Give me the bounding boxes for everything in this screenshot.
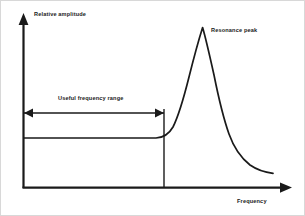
x-axis-label: Frequency <box>237 199 267 205</box>
useful-range-label: Useful frequency range <box>58 96 123 102</box>
y-axis-group <box>19 13 29 188</box>
resonance-peak-label: Resonance peak <box>211 28 257 34</box>
x-axis-group <box>23 183 293 193</box>
useful-range-measure-group <box>24 109 164 118</box>
y-axis-arrow-icon <box>19 13 29 25</box>
figure-container: Relative amplitude Frequency Useful freq… <box>0 0 305 216</box>
right-arrowhead-icon <box>155 109 164 118</box>
y-axis-label: Relative amplitude <box>34 12 86 18</box>
left-arrowhead-icon <box>24 109 33 118</box>
diagram-canvas <box>1 1 305 216</box>
x-axis-arrow-icon <box>280 183 292 193</box>
